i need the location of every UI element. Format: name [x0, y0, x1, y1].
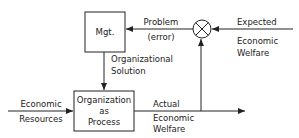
actual-label-line-1: Actual — [153, 99, 180, 109]
resources-signal: Economic Resources — [8, 99, 73, 124]
organization-label-line-1: Organization — [77, 95, 131, 105]
actual-welfare-signal: Actual Economic Welfare — [134, 99, 245, 134]
actual-label-line-2: Economic — [153, 113, 194, 123]
management-block: Mgt. — [85, 12, 125, 52]
solution-label-line-1: Organizational — [111, 54, 173, 64]
problem-signal: Problem (error) — [126, 17, 193, 42]
solution-label-line-2: Solution — [111, 66, 146, 76]
actual-label-line-3: Welfare — [153, 124, 185, 134]
expected-label-line-3: Welfare — [237, 48, 269, 58]
problem-label-line-1: Problem — [144, 17, 179, 27]
resources-label-line-1: Economic — [20, 99, 61, 109]
expected-label-line-1: Expected — [237, 17, 277, 27]
expected-welfare-signal: Expected Economic Welfare — [212, 17, 293, 58]
organization-block: Organization as Process — [74, 91, 134, 131]
expected-label-line-2: Economic — [237, 36, 278, 46]
resources-label-line-2: Resources — [19, 114, 63, 124]
solution-signal: Organizational Solution — [104, 52, 173, 90]
organization-label-line-2: as — [99, 106, 109, 116]
organization-label-line-3: Process — [88, 117, 121, 127]
comparator-junction-icon — [193, 20, 211, 38]
problem-label-line-2: (error) — [147, 32, 174, 42]
feedback-diagram: Mgt. Organization as Process Expected Ec… — [0, 0, 299, 138]
management-label: Mgt. — [96, 27, 115, 37]
